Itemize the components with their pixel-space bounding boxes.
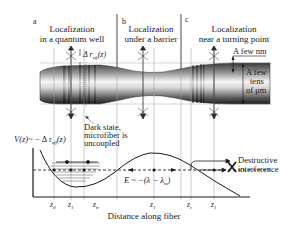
potential-curve [40,150,240,196]
y-axis-label: V(z)~ − Δ reff(z) [14,134,66,145]
potential-plot: V(z)~ − Δ reff(z) [14,134,279,221]
panel-b-header: b Localization under a barrier [122,17,177,44]
panel-c-title-1: Localization [212,24,257,34]
panel-a-title-1: Localization [50,24,95,34]
panel-b-title-1: Localization [129,24,174,34]
figure: a Localization in a quantum well b Local… [0,0,289,227]
svg-text:interference: interference [238,164,279,174]
x-ticks: ztl z1 ztr z1 zt z1 [49,200,216,210]
svg-text:zt: zt [186,200,192,210]
svg-text:z1: z1 [67,200,73,210]
energy-label: E ~ −(λ − λm) [123,175,171,186]
panel-c-header: c Localization near a turning point [185,15,270,44]
panel-c-title-2: near a turning point [199,34,270,44]
panel-a-letter: a [33,17,37,26]
svg-text:ztl: ztl [49,200,56,210]
panel-b-title-2: under a barrier [125,34,178,44]
cross-icon [228,162,236,172]
svg-text:uncoupled: uncoupled [84,138,120,148]
x-axis-label: Distance along fiber [108,211,181,221]
svg-text:ztr: ztr [92,200,99,210]
scale-nm-label: A few nm [233,46,267,56]
svg-text:z1: z1 [149,200,155,210]
panel-b-letter: b [122,17,126,26]
panel-a-title-2: in a quantum well [40,34,105,44]
svg-text:z1: z1 [210,200,216,210]
svg-text:Δ reff(z): Δ reff(z) [82,50,106,60]
panel-c-letter: c [185,15,189,24]
microfiber [40,62,270,108]
dark-state-annotation: Dark state, microfiber is uncoupled [84,116,128,148]
panel-a-header: a Localization in a quantum well [33,17,105,44]
svg-text:of μm: of μm [246,85,267,95]
